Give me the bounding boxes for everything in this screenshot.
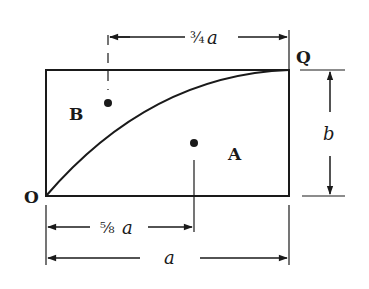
outer-dim-var: a bbox=[164, 247, 175, 268]
region-b-label: B bbox=[69, 104, 83, 124]
inner-dim-fraction: ⅝ bbox=[100, 219, 115, 237]
centroid-b-point bbox=[104, 99, 112, 107]
centroid-a-point bbox=[190, 139, 198, 147]
origin-label: O bbox=[24, 187, 39, 207]
inner-dim-var: a bbox=[122, 217, 133, 238]
region-a-label: A bbox=[227, 144, 242, 164]
top-dim-fraction: ¾ bbox=[190, 29, 205, 47]
corner-q-label: Q bbox=[296, 47, 311, 67]
bounding-rectangle bbox=[46, 70, 289, 196]
height-b-label: b bbox=[323, 123, 335, 144]
parabolic-curve bbox=[46, 70, 289, 196]
centroid-diagram: O Q B A b ¾ a ⅝ a a bbox=[0, 0, 369, 289]
top-dim-var: a bbox=[207, 27, 218, 48]
